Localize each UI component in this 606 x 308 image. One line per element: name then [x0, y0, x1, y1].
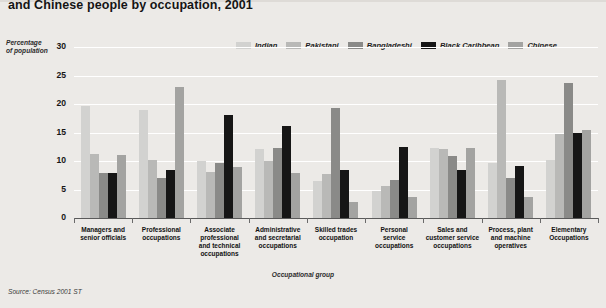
bar [372, 191, 381, 218]
bar [108, 173, 117, 218]
bar [264, 161, 273, 218]
x-axis-tick [482, 218, 483, 223]
bar [175, 87, 184, 218]
bar-group [423, 47, 481, 218]
chart-container: and Chinese people by occupation, 2001 P… [0, 0, 606, 308]
bar-group [365, 47, 423, 218]
bar [117, 155, 126, 218]
y-axis-tick-label: 10 [36, 155, 66, 165]
bar [291, 173, 300, 218]
bar [206, 172, 215, 218]
bar [399, 147, 408, 218]
y-axis-tick-label: 25 [36, 70, 66, 80]
page-title: and Chinese people by occupation, 2001 [8, 0, 253, 12]
bar [408, 197, 417, 218]
bar [524, 197, 533, 218]
category-label: Process, plantand machineoperatives [482, 226, 540, 258]
bar-groups [74, 47, 598, 218]
bar [215, 163, 224, 218]
y-axis-tick-label: 15 [36, 127, 66, 137]
bar [313, 181, 322, 218]
bar-group [482, 47, 540, 218]
bar [564, 83, 573, 218]
bar [349, 202, 358, 218]
bar [166, 170, 175, 218]
source-note: Source: Census 2001 ST [8, 288, 82, 295]
x-axis-tick [249, 218, 250, 223]
bar [282, 126, 291, 218]
category-label: Personalserviceoccupations [365, 226, 423, 258]
category-label: Professionaloccupations [132, 226, 190, 258]
bar-group [74, 47, 132, 218]
x-axis-tick [307, 218, 308, 223]
bar-group [190, 47, 248, 218]
bar [466, 148, 475, 218]
bar [322, 174, 331, 218]
bar-group [249, 47, 307, 218]
x-axis-tick [132, 218, 133, 223]
bar [555, 134, 564, 218]
y-axis-tick-label: 0 [36, 212, 66, 222]
bar [331, 108, 340, 218]
bar [439, 149, 448, 218]
bar [488, 163, 497, 218]
bar [90, 154, 99, 218]
bar [340, 170, 349, 218]
y-axis-tick-label: 30 [36, 41, 66, 51]
bar [81, 106, 90, 218]
bar [233, 167, 242, 218]
bar [497, 80, 506, 219]
bar-group [132, 47, 190, 218]
category-label: Sales andcustomer serviceoccupations [423, 226, 481, 258]
category-label: Associateprofessionaland technicaloccupa… [190, 226, 248, 258]
bar [430, 148, 439, 218]
bar [582, 130, 591, 218]
plot-area: 051015202530 [74, 47, 598, 218]
x-axis-tick [423, 218, 424, 223]
bar [546, 160, 555, 218]
category-label: Managers andsenior officials [74, 226, 132, 258]
y-axis-tick-label: 5 [36, 184, 66, 194]
x-axis-tick [598, 218, 599, 223]
category-label: Administrativeand secretarialoccupations [249, 226, 307, 258]
x-axis-label: Occupational group [0, 271, 606, 278]
bar-group [540, 47, 598, 218]
x-axis-tick [540, 218, 541, 223]
bar [573, 133, 582, 219]
category-label: ElementaryOccupations [540, 226, 598, 258]
bar [157, 178, 166, 218]
bar [515, 166, 524, 218]
bar [448, 156, 457, 218]
y-axis-tick-label: 20 [36, 98, 66, 108]
bar [197, 161, 206, 218]
bar [457, 170, 466, 218]
category-label: Skilled tradesoccupation [307, 226, 365, 258]
bar [273, 148, 282, 218]
bar [139, 110, 148, 218]
x-axis-category-labels: Managers andsenior officialsProfessional… [74, 226, 598, 258]
x-axis-ticks [74, 218, 598, 223]
bar [148, 160, 157, 218]
bar [506, 178, 515, 218]
bar [390, 180, 399, 218]
bar-group [307, 47, 365, 218]
x-axis-tick [74, 218, 75, 223]
bar [381, 186, 390, 218]
x-axis-tick [190, 218, 191, 223]
bar [224, 115, 233, 218]
bar [99, 173, 108, 218]
bar [255, 149, 264, 218]
x-axis-tick [365, 218, 366, 223]
